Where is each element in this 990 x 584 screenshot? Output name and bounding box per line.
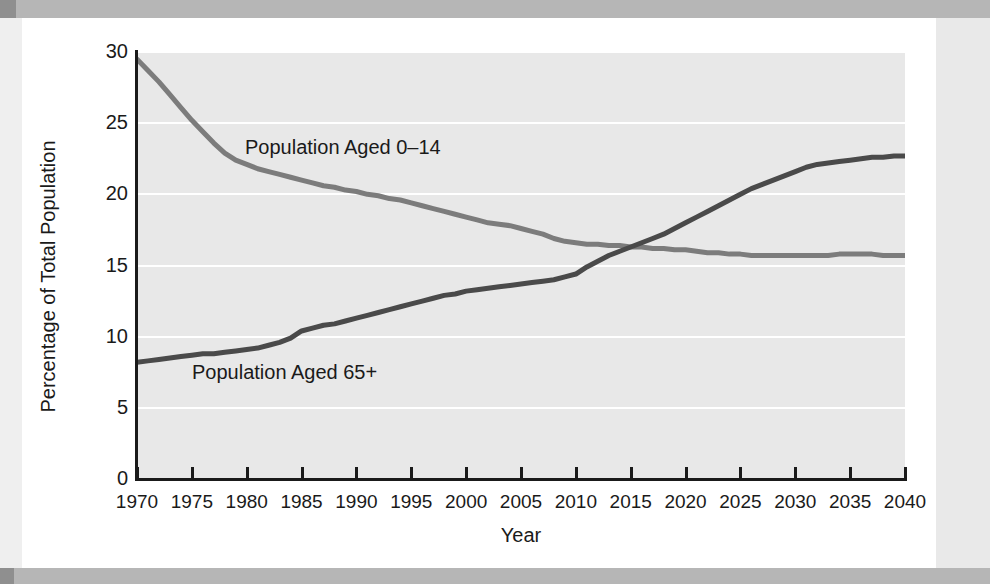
- x-tick-label-1985: 1985: [272, 492, 332, 511]
- x-tick-mark-1990: [355, 467, 358, 479]
- x-tick-mark-2005: [520, 467, 523, 479]
- x-tick-mark-2015: [630, 467, 633, 479]
- x-tick-label-2000: 2000: [436, 492, 496, 511]
- x-tick-mark-1980: [246, 467, 249, 479]
- y-tick-label-15: 15: [88, 255, 128, 275]
- x-tick-label-2040: 2040: [875, 492, 935, 511]
- x-tick-label-2010: 2010: [546, 492, 606, 511]
- x-tick-label-1995: 1995: [381, 492, 441, 511]
- x-tick-mark-1985: [301, 467, 304, 479]
- x-tick-label-2015: 2015: [601, 492, 661, 511]
- x-tick-mark-2040: [904, 467, 907, 479]
- series-annotation-aged-65-plus: Population Aged 65+: [192, 362, 377, 382]
- line-chart-figure: 051015202530 197019751980198519901995200…: [0, 0, 990, 584]
- x-tick-label-1975: 1975: [162, 492, 222, 511]
- y-tick-label-0: 0: [88, 468, 128, 488]
- y-tick-label-30: 30: [88, 41, 128, 61]
- x-tick-mark-2020: [685, 467, 688, 479]
- x-tick-label-1990: 1990: [326, 492, 386, 511]
- x-tick-mark-2030: [794, 467, 797, 479]
- x-tick-label-2020: 2020: [656, 492, 716, 511]
- y-axis-title: Percentage of Total Population: [37, 77, 60, 477]
- x-tick-label-2030: 2030: [765, 492, 825, 511]
- y-tick-label-25: 25: [88, 112, 128, 132]
- series-lines: [137, 52, 905, 479]
- x-tick-mark-1995: [410, 467, 413, 479]
- x-tick-label-2025: 2025: [710, 492, 770, 511]
- series-line-aged-65-plus: [137, 156, 905, 362]
- y-tick-label-10: 10: [88, 326, 128, 346]
- series-annotation-aged-0-14: Population Aged 0–14: [245, 137, 441, 157]
- x-tick-label-2035: 2035: [820, 492, 880, 511]
- x-tick-label-2005: 2005: [491, 492, 551, 511]
- x-tick-label-1980: 1980: [217, 492, 277, 511]
- x-tick-mark-2025: [739, 467, 742, 479]
- y-tick-label-5: 5: [88, 397, 128, 417]
- x-tick-mark-2000: [465, 467, 468, 479]
- x-tick-label-1970: 1970: [107, 492, 167, 511]
- x-tick-mark-2035: [849, 467, 852, 479]
- x-tick-mark-1970: [136, 467, 139, 479]
- y-axis-line: [135, 50, 138, 481]
- y-tick-label-20: 20: [88, 183, 128, 203]
- x-axis-title: Year: [137, 524, 905, 547]
- x-tick-mark-2010: [575, 467, 578, 479]
- x-tick-mark-1975: [191, 467, 194, 479]
